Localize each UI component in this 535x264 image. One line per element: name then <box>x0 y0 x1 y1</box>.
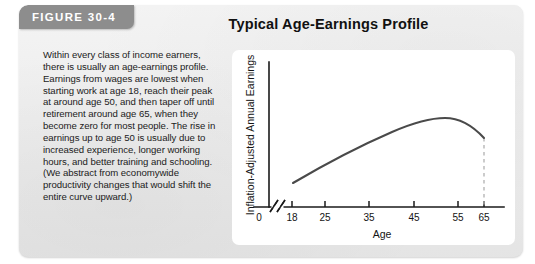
age-earnings-curve <box>293 118 484 183</box>
figure-card: FIGURE 30-4 Typical Age-Earnings Profile… <box>19 5 523 257</box>
x-tick-marks <box>292 201 484 207</box>
figure-title: Typical Age-Earnings Profile <box>134 7 523 41</box>
x-origin-label: 0 <box>256 212 262 223</box>
figure-caption-text: Within every class of income earners, th… <box>43 49 218 203</box>
figure-caption: Within every class of income earners, th… <box>43 49 218 203</box>
age-earnings-chart: 0 18 25 35 45 55 65 Age Inflation-Adjust… <box>232 50 515 245</box>
y-axis-title: Inflation-Adjusted Annual Earnings <box>244 55 256 216</box>
x-tick-label-55: 55 <box>452 212 464 223</box>
x-tick-label-25: 25 <box>319 212 331 223</box>
x-tick-label-65: 65 <box>478 212 490 223</box>
figure-banner-label: FIGURE 30-4 <box>19 11 116 23</box>
figure-banner: FIGURE 30-4 <box>19 5 134 29</box>
x-tick-label-35: 35 <box>363 212 375 223</box>
chart-panel: 0 18 25 35 45 55 65 Age Inflation-Adjust… <box>232 50 515 245</box>
x-tick-label-18: 18 <box>286 212 298 223</box>
x-tick-label-45: 45 <box>408 212 420 223</box>
x-axis-title: Age <box>373 228 392 240</box>
